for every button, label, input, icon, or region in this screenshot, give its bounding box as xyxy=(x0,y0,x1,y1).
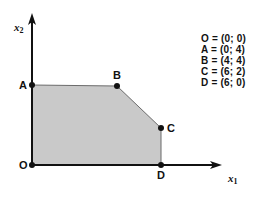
vertex-label-a: A xyxy=(19,80,27,91)
vertex-point-a xyxy=(29,82,35,88)
y-axis-label-subscript: 2 xyxy=(20,26,24,35)
vertex-label-d: D xyxy=(157,170,165,181)
legend-row-b: B = (4; 4) xyxy=(201,55,246,66)
plot-area xyxy=(0,0,264,197)
legend-row-o: O = (0; 0) xyxy=(201,33,246,44)
vertex-point-c xyxy=(158,125,164,131)
coordinates-legend: O = (0; 0) A = (0; 4) B = (4; 4) C = (6;… xyxy=(201,33,246,88)
vertex-point-o xyxy=(29,162,35,168)
vertex-label-o: O xyxy=(19,160,28,171)
x-axis-label-base: x xyxy=(228,172,234,184)
vertex-label-c: C xyxy=(167,123,175,134)
vertex-point-b xyxy=(114,83,120,89)
y-axis-label-base: x xyxy=(14,21,20,33)
feasible-region-polygon xyxy=(32,85,161,165)
legend-row-a: A = (0; 4) xyxy=(201,44,246,55)
feasible-region-diagram: x2 x1 O A B C D O = (0; 0) A = (0; 4) B … xyxy=(0,0,264,197)
vertex-label-b: B xyxy=(113,70,121,81)
x-axis-label-subscript: 1 xyxy=(234,177,238,186)
vertex-point-d xyxy=(158,162,164,168)
y-axis-label: x2 xyxy=(14,22,24,33)
x-axis-label: x1 xyxy=(228,173,238,184)
legend-row-d: D = (6; 0) xyxy=(201,77,246,88)
legend-row-c: C = (6; 2) xyxy=(201,66,246,77)
